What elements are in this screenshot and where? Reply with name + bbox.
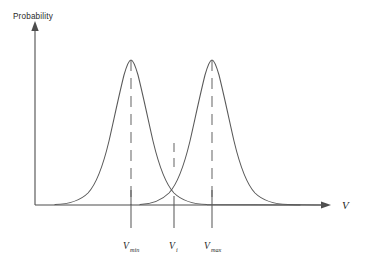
svg-text:i: i [176,246,178,253]
figure-canvas: Probability V V min V i V max [0,0,367,264]
x-axis-label: V [342,199,350,211]
distribution-curve-min [55,60,300,205]
tick-label-v-min: V min [123,240,139,253]
svg-text:V: V [169,240,176,251]
svg-text:V: V [123,240,130,251]
svg-text:V: V [204,240,211,251]
svg-text:min: min [130,246,139,253]
svg-text:max: max [211,246,222,253]
y-axis-arrowhead [31,21,38,31]
y-axis-label: Probability [13,12,54,21]
probability-figure: Probability V V min V i V max [0,0,367,264]
tick-label-v-max: V max [204,240,222,253]
tick-label-v-i: V i [169,240,178,253]
